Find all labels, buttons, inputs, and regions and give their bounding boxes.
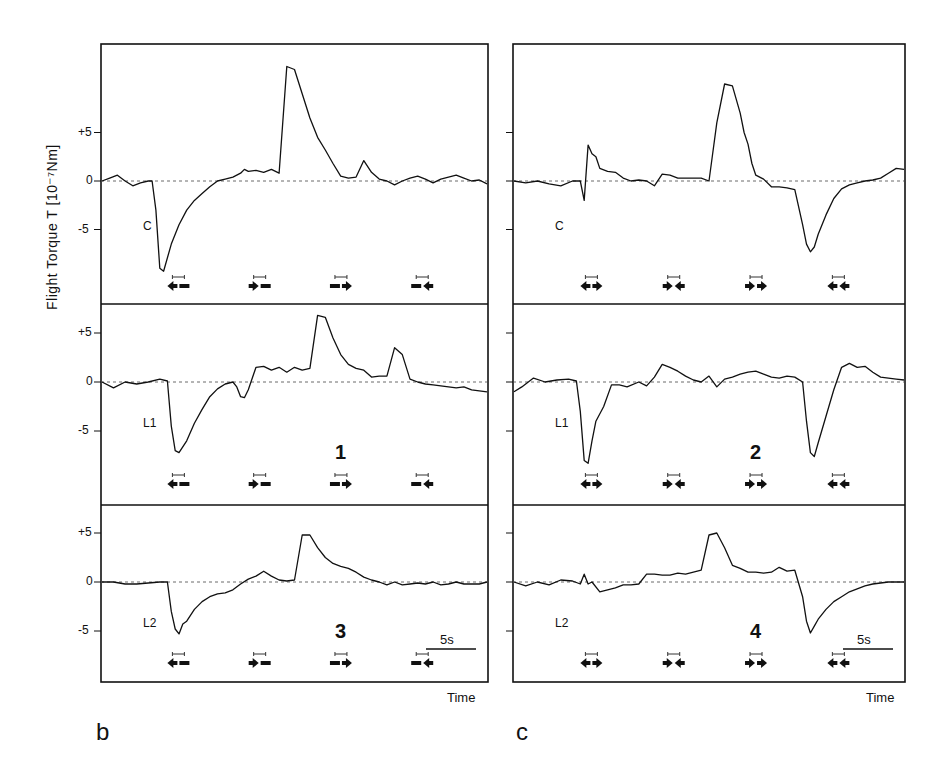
- y-tick-label: +5: [78, 525, 92, 539]
- y-tick-label: +5: [78, 325, 92, 339]
- x-axis-label-c: Time: [866, 690, 894, 705]
- zero-lines: [101, 181, 905, 582]
- panel-frame-b: [101, 44, 488, 682]
- experiment-number: 4: [750, 620, 761, 643]
- panel-letter-b: b: [96, 718, 109, 746]
- scale-bar-label: 5s: [440, 632, 454, 647]
- trace-b-C: [102, 67, 487, 272]
- y-tick-label: -5: [78, 623, 89, 637]
- y-tick-label: -5: [78, 222, 89, 236]
- condition-label: L1: [555, 416, 568, 430]
- experiment-number: 3: [335, 620, 346, 643]
- y-axis-label: Flight Torque T [10⁻⁷Nm]: [44, 144, 60, 310]
- y-tick-label: +5: [78, 125, 92, 139]
- condition-label: L2: [555, 616, 568, 630]
- scale-bar-label: 5s: [857, 632, 871, 647]
- stimulus-markers: [167, 275, 849, 668]
- trace-c-C: [514, 84, 904, 252]
- figure-canvas: [0, 0, 951, 781]
- trace-b-L2: [102, 535, 487, 634]
- x-axis-label-b: Time: [447, 690, 475, 705]
- trace-c-L1: [514, 363, 904, 463]
- torque-traces: [102, 67, 904, 634]
- panel-frames: [101, 44, 905, 682]
- trace-b-L1: [102, 315, 487, 452]
- condition-label: C: [143, 219, 152, 233]
- panel-frame-c: [513, 44, 905, 682]
- y-tick-label: 0: [86, 574, 93, 588]
- experiment-number: 2: [750, 441, 761, 464]
- condition-label: C: [555, 219, 564, 233]
- y-tick-label: -5: [78, 423, 89, 437]
- y-tick-label: 0: [86, 173, 93, 187]
- experiment-number: 1: [335, 441, 346, 464]
- y-tick-label: 0: [86, 374, 93, 388]
- condition-label: L1: [143, 416, 156, 430]
- trace-c-L2: [514, 533, 904, 633]
- condition-label: L2: [143, 616, 156, 630]
- panel-letter-c: c: [516, 718, 528, 746]
